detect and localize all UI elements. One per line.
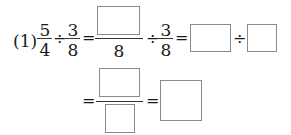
fraction2-numerator: 3 <box>66 22 80 39</box>
step1-fraction-numerator: 3 <box>159 22 173 39</box>
step1-fraction-bar <box>95 38 143 39</box>
step1-fraction-denominator: 8 <box>159 42 173 59</box>
step2-box-b[interactable] <box>247 24 277 52</box>
fraction1-numerator: 5 <box>38 22 52 39</box>
step1-denominator: 8 <box>112 43 126 60</box>
fraction1-denominator: 4 <box>38 42 52 59</box>
answer-box[interactable] <box>160 80 202 121</box>
divide-sign-1: ÷ <box>53 31 66 47</box>
fraction2-bar <box>65 38 80 39</box>
equals-sign-2: = <box>175 30 188 46</box>
step3-denominator-box[interactable] <box>105 104 135 133</box>
problem-label: (1) <box>13 33 37 50</box>
fraction2-denominator: 8 <box>66 42 80 59</box>
step1-numerator-input-box[interactable] <box>97 6 140 35</box>
equals-sign-3: = <box>82 93 95 109</box>
step2-box-a[interactable] <box>190 24 231 52</box>
divide-sign-2: ÷ <box>146 31 159 47</box>
equals-sign-1: = <box>82 30 95 46</box>
step3-fraction-bar <box>96 101 143 102</box>
step3-numerator-box[interactable] <box>99 68 140 97</box>
step1-fraction2-bar <box>158 38 173 39</box>
divide-sign-3: ÷ <box>233 31 246 47</box>
fraction1-bar <box>37 38 52 39</box>
equals-sign-4: = <box>146 93 159 109</box>
